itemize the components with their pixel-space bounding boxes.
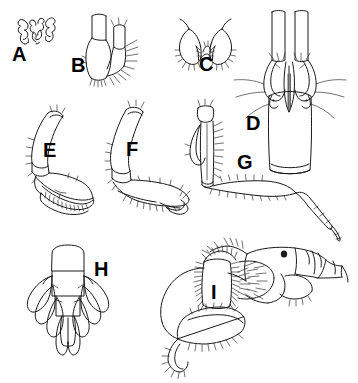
panel-label-f: F [126, 139, 138, 159]
figure-drawing-layer [0, 0, 358, 383]
panel-f-drawing [105, 100, 190, 214]
panel-label-a: A [12, 44, 26, 64]
panel-label-i: I [211, 282, 217, 302]
panel-label-c: C [199, 54, 213, 74]
panel-label-g: G [237, 152, 253, 172]
panel-label-h: H [94, 259, 108, 279]
panel-e-drawing [26, 105, 94, 215]
panel-b-drawing [82, 14, 138, 87]
panel-i-drawing [161, 238, 348, 379]
panel-g-drawing [185, 99, 341, 241]
panel-label-d: D [246, 113, 260, 133]
figure-plate: A B C D E F G H I [0, 0, 358, 383]
panel-d-drawing [234, 11, 346, 174]
panel-a-drawing [18, 18, 55, 44]
panel-label-b: B [71, 55, 85, 75]
panel-label-e: E [43, 140, 56, 160]
